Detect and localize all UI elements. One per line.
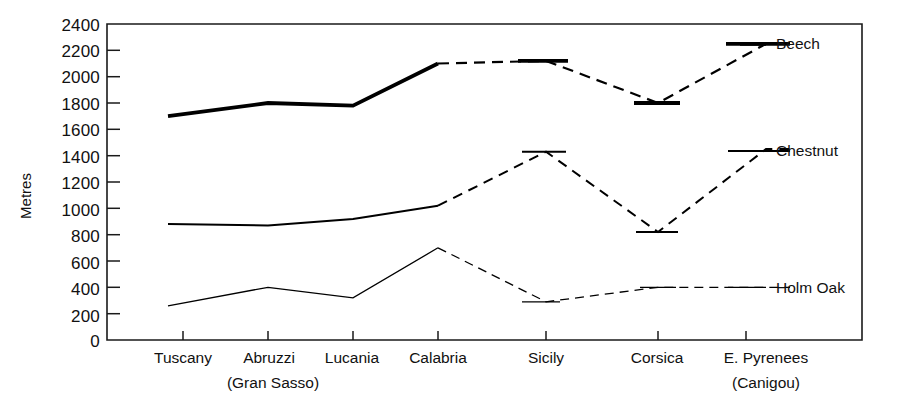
y-tick-label: 600 bbox=[71, 254, 100, 273]
y-tick-label: 1200 bbox=[61, 174, 100, 193]
beech-solid-path bbox=[168, 64, 438, 117]
x-label-lucania: Lucania bbox=[325, 349, 380, 366]
y-tick-label: 1800 bbox=[61, 95, 100, 114]
x-label-abruzzi: Abruzzi bbox=[243, 349, 295, 366]
beech-dashed-path bbox=[438, 44, 790, 103]
y-tick-label: 1400 bbox=[61, 148, 100, 167]
series-chestnut bbox=[168, 149, 790, 232]
chart-figure: Metres 2400 2200 2000 1800 1600 1400 120… bbox=[0, 0, 898, 419]
x-label-tuscany: Tuscany bbox=[154, 349, 212, 366]
series-beech bbox=[168, 44, 790, 116]
x-label-sicily: Sicily bbox=[528, 349, 564, 366]
chestnut-dashed-path bbox=[438, 149, 790, 232]
x-sublabel-gran-sasso: (Gran Sasso) bbox=[227, 374, 319, 391]
holm-oak-solid-path bbox=[168, 248, 438, 306]
y-tick-labels: 2400 2200 2000 1800 1600 1400 1200 1000 … bbox=[61, 16, 100, 351]
chestnut-solid-path bbox=[168, 206, 438, 226]
x-axis-labels: Tuscany Abruzzi Lucania Calabria Sicily … bbox=[154, 349, 808, 391]
y-axis-title: Metres bbox=[17, 173, 34, 219]
y-tick-label: 2400 bbox=[61, 16, 100, 35]
line-chart: Metres 2400 2200 2000 1800 1600 1400 120… bbox=[0, 0, 898, 419]
y-tick-label: 1600 bbox=[61, 121, 100, 140]
y-tick-label: 800 bbox=[71, 227, 100, 246]
legend-label-beech: Beech bbox=[776, 35, 820, 52]
holm-oak-dashed-path bbox=[438, 248, 790, 302]
series-holm-oak bbox=[168, 248, 790, 306]
x-label-corsica: Corsica bbox=[631, 349, 684, 366]
y-tickmarks bbox=[107, 50, 120, 313]
x-label-calabria: Calabria bbox=[409, 349, 467, 366]
x-tickmarks bbox=[183, 331, 746, 340]
y-tick-label: 1000 bbox=[61, 201, 100, 220]
x-sublabel-canigou: (Canigou) bbox=[732, 374, 800, 391]
legend: Beech Chestnut Holm Oak bbox=[726, 35, 845, 296]
y-tick-label: 400 bbox=[71, 280, 100, 299]
y-tick-label: 2200 bbox=[61, 42, 100, 61]
y-tick-label: 0 bbox=[90, 332, 100, 351]
legend-label-holm-oak: Holm Oak bbox=[776, 279, 845, 296]
y-tick-label: 200 bbox=[71, 307, 100, 326]
x-label-e-pyrenees: E. Pyrenees bbox=[724, 349, 809, 366]
legend-label-chestnut: Chestnut bbox=[776, 142, 839, 159]
y-tick-label: 2000 bbox=[61, 68, 100, 87]
